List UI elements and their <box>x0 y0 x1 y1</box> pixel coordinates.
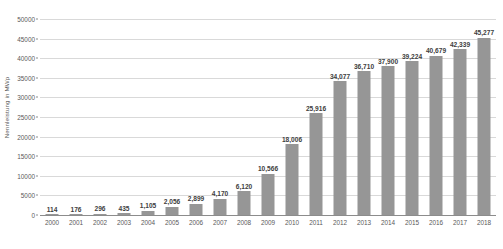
y-tick-label: 40000 <box>17 55 35 62</box>
y-tick-label: 45000 <box>17 35 35 42</box>
bar[interactable] <box>382 66 395 215</box>
bar[interactable] <box>238 191 251 215</box>
bar-group: 176 <box>64 19 88 215</box>
x-tick-label: 2004 <box>141 219 155 226</box>
x-tick-label: 2009 <box>261 219 275 226</box>
bar-value-label: 2,056 <box>164 198 181 205</box>
y-axis-ticks: 0500010000150002000025000300003500040000… <box>0 19 38 215</box>
y-tick-mark <box>36 136 38 137</box>
y-tick-mark <box>36 19 38 20</box>
bar-group: 40,679 <box>424 19 448 215</box>
y-tick-label: 50000 <box>17 16 35 23</box>
x-tick-label: 2011 <box>309 219 323 226</box>
bar[interactable] <box>286 144 299 215</box>
bar-group: 10,566 <box>256 19 280 215</box>
bar-group: 36,710 <box>352 19 376 215</box>
bar-value-label: 114 <box>47 206 58 213</box>
x-tick-label: 2012 <box>333 219 347 226</box>
bar[interactable] <box>310 113 323 215</box>
bar[interactable] <box>454 49 467 215</box>
x-tick-label: 2002 <box>93 219 107 226</box>
bar-group: 1,105 <box>136 19 160 215</box>
y-tick-mark <box>36 58 38 59</box>
bar[interactable] <box>94 214 107 215</box>
bar[interactable] <box>334 81 347 215</box>
y-tick-label: 10000 <box>17 172 35 179</box>
bar[interactable] <box>166 207 179 215</box>
x-tick-label: 2014 <box>381 219 395 226</box>
y-tick-mark <box>36 117 38 118</box>
y-tick-label: 25000 <box>17 114 35 121</box>
y-tick-mark <box>36 38 38 39</box>
y-tick-label: 35000 <box>17 74 35 81</box>
x-tick-label: 2000 <box>45 219 59 226</box>
x-tick-label: 2013 <box>357 219 371 226</box>
x-axis-labels: 2000200120022003200420052006200720082009… <box>40 219 496 233</box>
bar-group: 114 <box>40 19 64 215</box>
bar-value-label: 40,679 <box>426 47 446 54</box>
bar[interactable] <box>262 174 275 215</box>
bar-value-label: 34,077 <box>330 73 350 80</box>
bar-group: 42,339 <box>448 19 472 215</box>
bar-group: 435 <box>112 19 136 215</box>
x-tick-label: 2018 <box>477 219 491 226</box>
bar-group: 25,916 <box>304 19 328 215</box>
x-tick-label: 2015 <box>405 219 419 226</box>
bar[interactable] <box>70 214 83 215</box>
bar[interactable] <box>142 211 155 215</box>
y-tick-mark <box>36 175 38 176</box>
bar-group: 6,120 <box>232 19 256 215</box>
bar-value-label: 36,710 <box>354 63 374 70</box>
bar[interactable] <box>118 213 131 215</box>
y-tick-label: 5000 <box>21 192 35 199</box>
x-tick-label: 2001 <box>69 219 83 226</box>
bar[interactable] <box>358 71 371 215</box>
bar-group: 39,224 <box>400 19 424 215</box>
x-tick-label: 2010 <box>285 219 299 226</box>
bar[interactable] <box>406 61 419 215</box>
bar-value-label: 1,105 <box>140 202 157 209</box>
bar-value-label: 10,566 <box>258 165 278 172</box>
bar-group: 2,899 <box>184 19 208 215</box>
bar-value-label: 6,120 <box>236 183 253 190</box>
bar[interactable] <box>214 199 227 215</box>
bar[interactable] <box>190 204 203 215</box>
bar-value-label: 4,170 <box>212 190 229 197</box>
bar-value-label: 45,277 <box>474 29 494 36</box>
x-tick-label: 2017 <box>453 219 467 226</box>
bar-value-label: 176 <box>70 206 81 213</box>
bar-value-label: 39,224 <box>402 53 422 60</box>
y-tick-mark <box>36 77 38 78</box>
bar-value-label: 296 <box>94 205 105 212</box>
plot-area: 1141762964351,1052,0562,8994,1706,12010,… <box>40 19 496 215</box>
bar-value-label: 2,899 <box>188 195 205 202</box>
bar-value-label: 435 <box>118 205 129 212</box>
bar[interactable] <box>478 38 491 215</box>
x-tick-label: 2005 <box>165 219 179 226</box>
x-tick-label: 2007 <box>213 219 227 226</box>
y-tick-mark <box>36 97 38 98</box>
y-tick-mark <box>36 156 38 157</box>
bar-group: 2,056 <box>160 19 184 215</box>
x-tick-label: 2006 <box>189 219 203 226</box>
y-tick-label: 30000 <box>17 94 35 101</box>
y-tick-label: 20000 <box>17 133 35 140</box>
axis-baseline <box>40 215 496 216</box>
y-tick-mark <box>36 215 38 216</box>
bar-group: 37,900 <box>376 19 400 215</box>
y-tick-label: 0 <box>31 212 35 219</box>
bar-group: 34,077 <box>328 19 352 215</box>
bar-value-label: 25,916 <box>306 105 326 112</box>
bar-group: 296 <box>88 19 112 215</box>
x-tick-label: 2016 <box>429 219 443 226</box>
bar-chart: Nennleistung in MWp 05000100001500020000… <box>0 0 503 249</box>
bar-value-label: 18,006 <box>282 136 302 143</box>
bar-group: 45,277 <box>472 19 496 215</box>
bar[interactable] <box>46 214 59 215</box>
bar-group: 4,170 <box>208 19 232 215</box>
bar[interactable] <box>430 56 443 215</box>
y-tick-mark <box>36 195 38 196</box>
bar-value-label: 42,339 <box>450 41 470 48</box>
bar-value-label: 37,900 <box>378 58 398 65</box>
x-tick-label: 2003 <box>117 219 131 226</box>
